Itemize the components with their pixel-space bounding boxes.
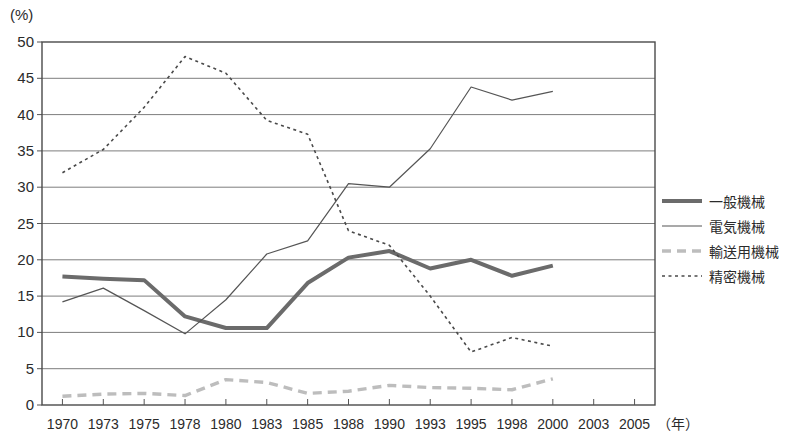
x-axis-tick-label: 1980 (204, 417, 248, 431)
x-axis-tick-label: 1975 (122, 417, 166, 431)
series-line-2 (62, 87, 552, 334)
x-axis-unit-label: （年） (657, 417, 699, 431)
line-chart: (%) 05101520253035404550 197019731975197… (0, 0, 793, 443)
x-axis-tick-label: 1983 (245, 417, 289, 431)
legend-item-1[interactable]: 一般機械 (662, 188, 793, 213)
x-axis-tick-label: 1990 (367, 417, 411, 431)
legend-item-4[interactable]: 精密機械 (662, 263, 793, 288)
x-axis-tick-label: 1973 (81, 417, 125, 431)
legend-swatch-icon (662, 195, 702, 207)
x-axis-tick-label: 2005 (613, 417, 657, 431)
x-axis-tick-label: 1985 (286, 417, 330, 431)
x-axis-tick-label: 1995 (449, 417, 493, 431)
x-axis-tick-label: 1978 (163, 417, 207, 431)
x-axis-tick-label: 1998 (490, 417, 534, 431)
legend-label: 輸送用機械 (709, 241, 779, 261)
legend-label: 電気機械 (709, 216, 765, 236)
legend-swatch-icon (662, 270, 702, 282)
x-axis-tick-label: 1970 (40, 417, 84, 431)
x-axis-tick-label: 2000 (531, 417, 575, 431)
series-line-1 (62, 251, 552, 328)
legend-label: 一般機械 (709, 191, 765, 211)
legend-item-2[interactable]: 電気機械 (662, 213, 793, 238)
x-axis-tick-label: 1993 (408, 417, 452, 431)
series-line-4 (62, 57, 552, 352)
legend-swatch-icon (662, 245, 702, 257)
legend-label: 精密機械 (709, 266, 765, 286)
chart-legend: 一般機械電気機械輸送用機械精密機械 (662, 188, 793, 288)
series-line-3 (62, 379, 552, 396)
legend-item-3[interactable]: 輸送用機械 (662, 238, 793, 263)
legend-swatch-icon (662, 220, 702, 232)
x-axis-tick-label: 1988 (327, 417, 371, 431)
x-axis-tick-label: 2003 (572, 417, 616, 431)
